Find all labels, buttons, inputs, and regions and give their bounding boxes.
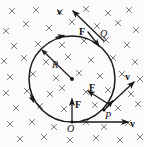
field-into-page-icon	[21, 55, 26, 60]
field-into-page-icon	[124, 42, 129, 47]
field-into-page-icon	[137, 134, 142, 139]
field-into-page-icon	[13, 105, 18, 110]
field-into-page-icon	[7, 121, 12, 126]
field-into-page-icon	[126, 7, 131, 12]
field-into-page-icon	[119, 71, 124, 76]
field-into-page-icon	[29, 119, 34, 124]
field-into-page-icon	[115, 20, 120, 25]
field-into-page-icon	[101, 124, 106, 129]
field-into-page-icon	[83, 89, 88, 94]
field-into-page-icon	[24, 88, 29, 93]
field-into-page-icon	[92, 102, 97, 107]
field-into-page-icon	[83, 6, 88, 11]
field-into-page-icon	[137, 76, 142, 81]
field-into-page-icon	[67, 137, 72, 142]
field-into-page-icon	[97, 73, 102, 78]
field-into-page-icon	[59, 85, 64, 90]
radius-vector-arrow-icon	[42, 50, 72, 79]
field-into-page-icon	[115, 105, 120, 110]
field-into-page-icon	[1, 58, 6, 63]
field-into-page-icon	[53, 75, 58, 80]
field-into-page-icon	[103, 37, 108, 42]
field-into-page-icon	[17, 136, 22, 141]
field-into-page-icon	[93, 135, 98, 140]
field-into-page-icon	[3, 90, 8, 95]
field-into-page-icon	[11, 43, 16, 48]
field-into-page-icon	[3, 28, 8, 33]
field-into-page-icon	[88, 57, 93, 62]
field-into-page-icon	[57, 9, 62, 14]
field-into-page-icon	[35, 41, 40, 46]
field-into-page-icon	[46, 25, 51, 30]
field-into-page-icon	[76, 70, 81, 75]
field-into-page-icon	[59, 42, 64, 47]
magnetic-field-circular-motion-figure: v F Q R v F P F O v	[0, 0, 144, 147]
field-into-page-icon	[81, 38, 86, 43]
point-p-dot	[103, 109, 106, 112]
field-into-page-icon	[135, 101, 140, 106]
force-at-p-arrow-icon	[88, 91, 110, 105]
point-o-dot	[70, 120, 73, 123]
field-into-page-icon	[133, 27, 138, 32]
field-into-page-icon	[105, 87, 110, 92]
orbit-center-dot	[70, 77, 74, 81]
field-into-page-icon	[43, 59, 48, 64]
figure-canvas	[0, 0, 144, 147]
field-into-page-icon	[105, 10, 110, 15]
field-into-page-icon	[128, 91, 133, 96]
field-into-page-icon	[65, 54, 70, 59]
field-into-page-icon	[69, 19, 74, 24]
field-into-page-icon	[30, 71, 35, 76]
field-into-page-icon	[23, 21, 28, 26]
field-into-page-icon	[7, 74, 12, 79]
field-into-page-icon	[47, 91, 52, 96]
field-into-page-icon	[132, 59, 137, 64]
field-into-page-icon	[33, 7, 38, 12]
field-into-page-icon	[61, 106, 66, 111]
field-into-page-icon	[94, 23, 99, 28]
field-into-page-icon	[51, 124, 56, 129]
field-into-page-icon	[9, 8, 14, 13]
field-into-page-icon	[117, 137, 122, 142]
field-into-page-icon	[125, 120, 130, 125]
field-into-page-icon	[41, 134, 46, 139]
